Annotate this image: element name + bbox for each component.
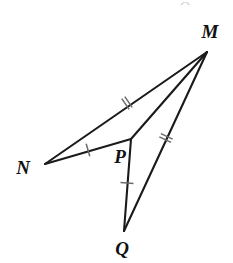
segments-group	[45, 52, 207, 231]
geometry-canvas	[0, 0, 233, 263]
tick-mark-np-1	[86, 144, 90, 156]
vertex-label-q: Q	[115, 239, 129, 258]
vertex-label-p: P	[114, 147, 126, 166]
vertex-label-n: N	[16, 158, 30, 177]
segment-qm	[124, 52, 207, 231]
tick-mark-pq-1	[121, 183, 134, 184]
geometry-figure: Q MNPQ	[0, 0, 233, 263]
vertex-label-m: M	[202, 22, 219, 41]
